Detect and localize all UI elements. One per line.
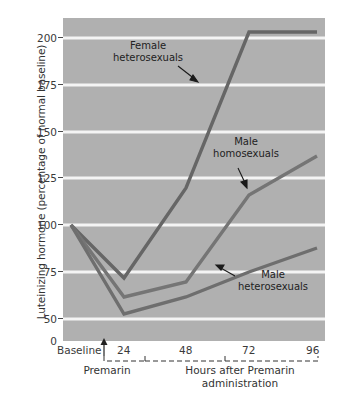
hours-bracket [145,356,318,361]
hours-after-premarin-label: Hours after Premarin administration [150,364,330,390]
annotation-male-homosexuals: Male homosexuals [196,136,296,160]
hours-label-line1: Hours after Premarin [150,364,330,377]
arrow-head-male-homosexuals [241,180,247,188]
y-tick-125: 125 [17,172,57,184]
y-tick-100: 100 [17,219,57,231]
y-tick-label: 125 [37,172,57,184]
y-tick-label: 175 [37,79,57,91]
annotation-male-homosexuals-line2: homosexuals [196,148,296,160]
y-tick-label: 200 [37,32,57,44]
premarin-bracket [104,356,145,361]
y-tick-label: 100 [37,219,57,231]
annotation-female-heterosexuals-line2: heterosexuals [93,52,203,64]
figure-caption [0,396,341,404]
premarin-label: Premarin [68,364,146,377]
annotation-male-heterosexuals-line1: Male [223,269,323,281]
y-tick-label: 75 [44,266,57,278]
y-tick-175: 175 [17,79,57,91]
hours-label-line2: administration [150,377,330,390]
annotation-male-heterosexuals: Male heterosexuals [223,269,323,293]
y-tick-label: 50 [44,313,57,325]
figure-luteinizing-hormone: Luteinizing hormone (percentage of norma… [0,0,341,404]
y-tick-150: 150 [17,126,57,138]
y-tick-75: 75 [17,266,57,278]
y-tick-200: 200 [17,32,57,44]
plot-area: Female heterosexuals Male homosexuals Ma… [63,18,325,341]
annotation-female-heterosexuals-line1: Female [93,40,203,52]
y-tick-50: 50 [17,313,57,325]
y-tick-label: 150 [37,126,57,138]
premarin-arrow-head [101,338,108,345]
annotation-male-heterosexuals-line2: heterosexuals [223,281,323,293]
annotation-male-homosexuals-line1: Male [196,136,296,148]
annotation-female-heterosexuals: Female heterosexuals [93,40,203,64]
